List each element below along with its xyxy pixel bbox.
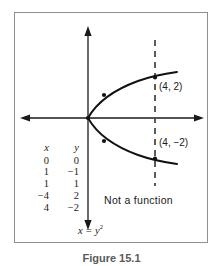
figure-root: (4, 2) (4, −2) x y 0 0 1 −1 1 1 −4 <box>0 0 223 266</box>
table-row: 4 −2 <box>27 202 79 214</box>
equation-label-exponent: 2 <box>100 223 103 230</box>
table-cell-y: 1 <box>49 178 79 190</box>
table-row: 1 −1 <box>27 166 79 178</box>
table-cell-x: −4 <box>27 190 49 202</box>
y-axis <box>84 26 91 230</box>
x-axis <box>20 114 204 121</box>
table-cell-x: 0 <box>27 155 49 167</box>
coordinate-plot <box>0 0 223 266</box>
table-row: 0 0 <box>27 155 79 167</box>
table-cell-y: −1 <box>49 166 79 178</box>
figure-caption: Figure 15.1 <box>0 252 223 264</box>
table-cell-y: 2 <box>49 190 79 202</box>
x-axis-left-arrow <box>20 114 30 121</box>
equation-label-text: x = y <box>78 225 100 236</box>
point-marker-4-2 <box>153 75 157 79</box>
equation-label: x = y2 <box>78 223 103 236</box>
point-marker-1-1 <box>102 93 106 97</box>
table-cell-x: 4 <box>27 202 49 214</box>
point-label-4-neg2: (4, −2) <box>159 137 188 148</box>
point-marker-4-neg2 <box>153 156 157 160</box>
table-row: 1 1 <box>27 178 79 190</box>
point-label-4-2: (4, 2) <box>159 81 182 92</box>
table-header-x: x <box>27 142 49 155</box>
point-marker-1-neg1 <box>102 139 106 143</box>
table-cell-y: 0 <box>49 155 79 167</box>
table-cell-y: −2 <box>49 202 79 214</box>
point-marker-0-0 <box>86 116 90 120</box>
table-row: −4 2 <box>27 190 79 202</box>
table-header-row: x y <box>27 142 79 155</box>
value-table: x y 0 0 1 −1 1 1 −4 2 4 −2 <box>27 142 79 213</box>
y-axis-top-arrow <box>84 26 91 36</box>
not-a-function-annotation: Not a function <box>104 194 173 206</box>
table-cell-x: 1 <box>27 166 49 178</box>
table-cell-x: 1 <box>27 178 49 190</box>
x-axis-right-arrow <box>194 114 204 121</box>
table-header-y: y <box>49 142 79 155</box>
